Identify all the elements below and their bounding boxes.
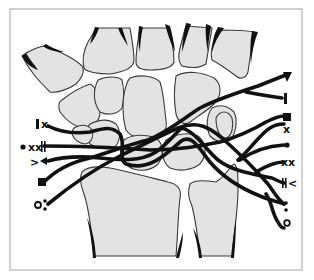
dot-icon xyxy=(20,144,25,149)
square-icon-right xyxy=(283,113,291,121)
square-icon-left xyxy=(38,178,46,186)
double-bar-icon-right-a xyxy=(282,178,284,188)
wrist-diagram: x xx > x xx < xyxy=(0,0,314,280)
double-bar-icon-right-b xyxy=(285,178,287,188)
label-lt: < xyxy=(288,177,297,190)
colon-icon-left-b xyxy=(43,207,47,211)
bar-icon-right xyxy=(284,93,287,104)
label-x-right: x xyxy=(283,123,290,136)
bar-icon xyxy=(36,119,39,129)
label-xx-left: xx xyxy=(28,141,42,154)
label-xx-right: xx xyxy=(281,156,295,169)
colon-icon-right-b xyxy=(284,208,288,212)
label-gt: > xyxy=(30,156,39,169)
colon-icon-left-a xyxy=(43,199,47,203)
colon-icon-right-a xyxy=(284,201,288,205)
label-x: x xyxy=(41,118,48,131)
double-bar-icon-b xyxy=(44,141,46,152)
double-bar-icon-a xyxy=(41,141,43,152)
dot-icon-right xyxy=(284,142,289,147)
capitate-head xyxy=(94,77,123,114)
capitate xyxy=(123,76,166,140)
